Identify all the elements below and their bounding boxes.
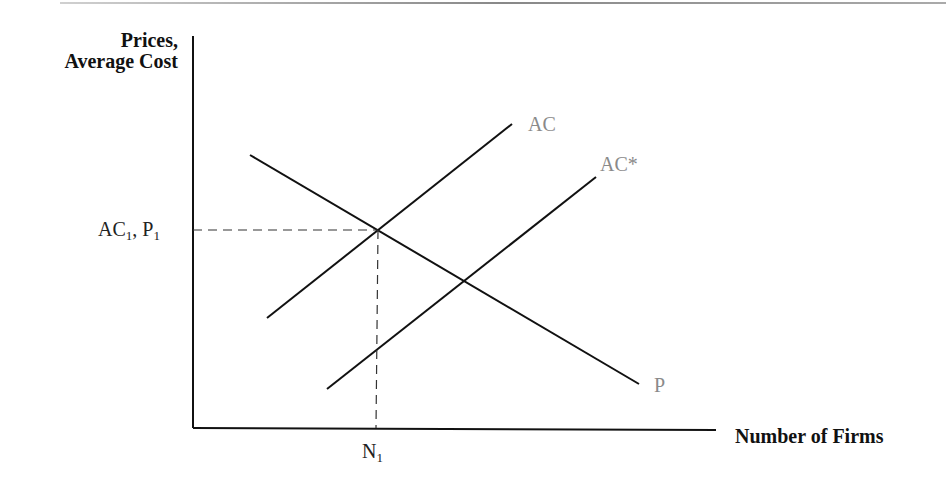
ac-label: AC <box>528 113 556 136</box>
separator: , <box>132 218 142 240</box>
p-text: P <box>142 218 153 240</box>
n-subscript: 1 <box>376 450 383 465</box>
x-axis-title: Number of Firms <box>735 425 884 448</box>
n-text: N <box>362 440 376 462</box>
y-axis-title: Prices, Average Cost <box>65 30 178 72</box>
ac-star-label: AC* <box>600 153 638 176</box>
ac-star-curve <box>327 177 596 389</box>
ac-text: AC <box>98 218 126 240</box>
y-axis-title-line2: Average Cost <box>65 51 178 72</box>
vertical-guide <box>376 230 378 428</box>
p-label: P <box>654 374 665 397</box>
ac-curve <box>267 124 512 318</box>
y-axis-title-line1: Prices, <box>65 30 178 51</box>
p-subscript: 1 <box>153 228 160 243</box>
x-axis <box>193 428 716 430</box>
y-tick-ac1-p1: AC1, P1 <box>98 218 160 244</box>
x-tick-n1: N1 <box>362 440 383 466</box>
